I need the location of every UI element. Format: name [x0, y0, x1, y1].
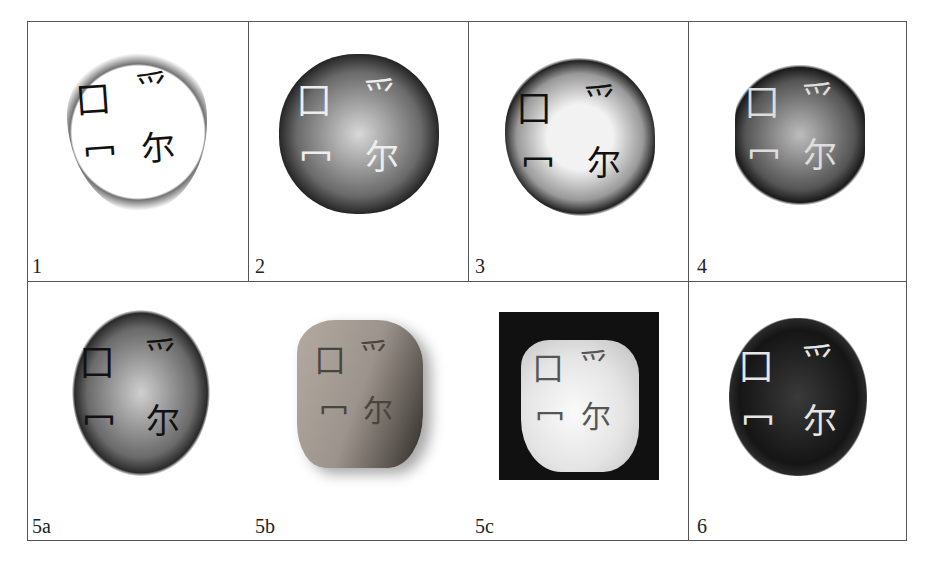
- panel-label: 4: [697, 256, 707, 276]
- panel-6: 囗 爫 冖 尔 6: [689, 282, 907, 541]
- panel-label: 5c: [475, 516, 494, 536]
- panel-label: 2: [255, 256, 265, 276]
- panel-3: 囗 爫 冖 尔 3: [469, 22, 688, 281]
- seal-rubbing-image: 囗 爫 冖 尔: [279, 54, 439, 214]
- seal-rubbing-image: 囗 爫 冖 尔: [735, 60, 865, 210]
- seal-rubbing-image: 囗 爫 冖 尔: [505, 58, 655, 216]
- seal-photo-image: 囗 爫 冖 尔: [521, 340, 639, 472]
- panel-label: 5a: [32, 516, 51, 536]
- panel-4: 囗 爫 冖 尔 4: [689, 22, 907, 281]
- panel-1: 囗 爫 冖 尔 1: [28, 22, 248, 281]
- seal-figure-grid: 囗 爫 冖 尔 1 囗 爫 冖 尔 2 囗 爫 冖 尔 3 囗 爫 冖 尔: [27, 21, 907, 541]
- panel-5c: 囗 爫 冖 尔 5c: [469, 282, 688, 541]
- panel-label: 5b: [255, 516, 275, 536]
- seal-rubbing-image: 囗 爫 冖 尔: [729, 318, 867, 476]
- seal-photo-dark-background: 囗 爫 冖 尔: [499, 312, 659, 480]
- panel-label: 1: [32, 256, 42, 276]
- seal-photo-image: 囗 爫 冖 尔: [297, 320, 423, 468]
- panel-label: 6: [697, 516, 707, 536]
- panel-5a: 囗 爫 冖 尔 5a: [28, 282, 248, 541]
- panel-label: 3: [475, 256, 485, 276]
- panel-5b: 囗 爫 冖 尔 5b: [249, 282, 468, 541]
- seal-rubbing-image: 囗 爫 冖 尔: [63, 47, 214, 216]
- seal-rubbing-image: 囗 爫 冖 尔: [72, 310, 210, 476]
- panel-2: 囗 爫 冖 尔 2: [249, 22, 468, 281]
